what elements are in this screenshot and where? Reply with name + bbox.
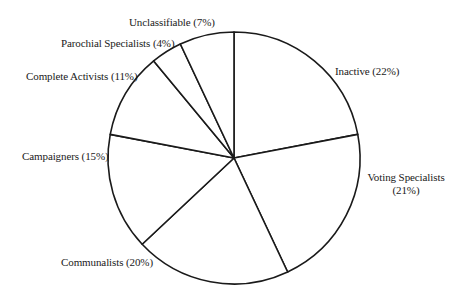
label-parochial-specialists: Parochial Specialists (4%) — [61, 37, 174, 50]
label-campaigners: Campaigners (15%) — [22, 150, 109, 163]
label-voting-specialists-pct: (21%) — [364, 184, 448, 197]
label-voting-specialists-name: Voting Specialists — [364, 171, 448, 184]
label-unclassifiable: Unclassifiable (7%) — [129, 16, 215, 29]
label-communalists: Communalists (20%) — [61, 256, 153, 269]
label-inactive: Inactive (22%) — [335, 65, 399, 78]
label-complete-activists: Complete Activists (11%) — [26, 70, 137, 83]
label-voting-specialists: Voting Specialists (21%) — [364, 171, 448, 197]
pie-slices — [108, 32, 360, 284]
